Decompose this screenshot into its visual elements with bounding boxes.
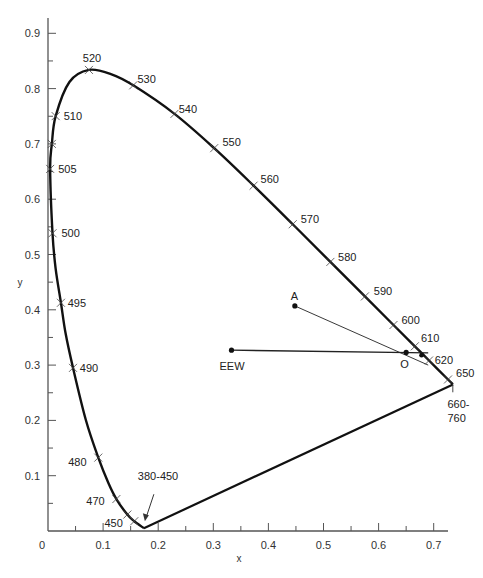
- wavelength-label: 650: [456, 367, 474, 379]
- y-tick-label: 0.9: [25, 27, 40, 39]
- y-tick-label: 0.4: [25, 304, 40, 316]
- wavelength-tick: [112, 495, 120, 503]
- point-o: [404, 350, 409, 355]
- y-tick-label: 0.3: [25, 359, 40, 371]
- wavelength-tick: [389, 321, 397, 329]
- cie-chromaticity-diagram: 00.10.20.30.40.50.60.70.10.20.30.40.50.6…: [0, 0, 483, 578]
- x-tick-label: 0.3: [206, 539, 221, 551]
- point-label-eew: EEW: [219, 360, 245, 372]
- wavelength-label: 490: [80, 362, 98, 374]
- arrowhead-icon: [143, 513, 149, 521]
- x-tick-label: 0.6: [371, 539, 386, 551]
- wavelength-label: 480: [68, 456, 86, 468]
- spectral-locus-curve: [50, 70, 453, 529]
- wavelength-label: 560: [261, 173, 279, 185]
- wavelength-tick: [444, 375, 452, 383]
- wavelength-tick: [425, 357, 433, 365]
- wavelength-label: 380-450: [138, 470, 178, 482]
- y-axis-title: y: [18, 277, 23, 288]
- wavelength-tick: [129, 81, 137, 89]
- spectral-locus: [46, 66, 453, 528]
- point-eew: [229, 348, 234, 353]
- wavelength-label: 470: [86, 495, 104, 507]
- wavelength-tick: [171, 110, 179, 118]
- wavelength-label: 450: [105, 517, 123, 529]
- wavelength-label: 505: [58, 163, 76, 175]
- x-tick-label: 0.2: [151, 539, 166, 551]
- wavelength-label: 550: [222, 136, 240, 148]
- y-tick-label: 0.1: [25, 470, 40, 482]
- wavelength-tick: [326, 258, 334, 266]
- wavelength-label: 570: [301, 213, 319, 225]
- wavelength-tick: [123, 511, 131, 519]
- wavelength-label: 500: [61, 227, 79, 239]
- wavelength-label: 540: [179, 103, 197, 115]
- wavelength-label: 610: [421, 332, 439, 344]
- point-label-o: O: [400, 358, 409, 370]
- x-tick-label: 0.1: [95, 539, 110, 551]
- x-tick-label: 0.5: [316, 539, 331, 551]
- y-tick-label: 0.7: [25, 138, 40, 150]
- x-tick-label: 0.4: [261, 539, 276, 551]
- wavelength-label: 620: [435, 354, 453, 366]
- annotations: EEWAO: [219, 290, 428, 372]
- wavelength-label: 520: [83, 52, 101, 64]
- wavelength-label: 590: [374, 285, 392, 297]
- line-of-purples: [144, 384, 453, 528]
- wavelength-tick: [289, 220, 297, 228]
- point-dominant-wavelength: [419, 353, 424, 358]
- wavelength-labels: 520530540550560570580590600610620650660-…: [58, 52, 474, 529]
- wavelength-label: 530: [137, 73, 155, 85]
- wavelength-tick: [250, 182, 258, 190]
- x-tick-label: 0.7: [426, 539, 441, 551]
- x-axis-title: x: [237, 553, 242, 564]
- wavelength-tick: [361, 292, 369, 300]
- wavelength-tick: [411, 342, 419, 350]
- wavelength-label: 510: [64, 110, 82, 122]
- y-tick-label: 0.5: [25, 249, 40, 261]
- point-label-a: A: [291, 290, 299, 302]
- wavelength-label: 600: [401, 314, 419, 326]
- point-a: [292, 303, 297, 308]
- wavelength-label: 660-: [447, 398, 469, 410]
- y-tick-label: 0.6: [25, 193, 40, 205]
- y-tick-label: 0.2: [25, 414, 40, 426]
- wavelength-label: 495: [68, 297, 86, 309]
- y-tick-label: 0.8: [25, 83, 40, 95]
- wavelength-label: 760: [447, 412, 465, 424]
- x-tick-label: 0: [39, 539, 45, 551]
- wavelength-tick: [210, 144, 218, 152]
- wavelength-label: 580: [338, 251, 356, 263]
